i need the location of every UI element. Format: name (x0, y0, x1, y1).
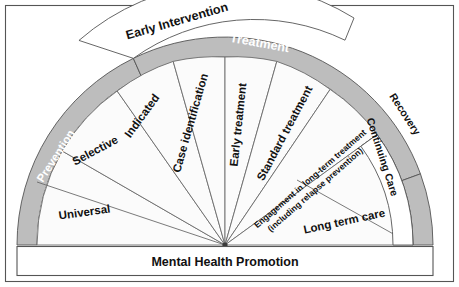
label-mental-health-promotion: Mental Health Promotion (151, 255, 298, 269)
diagram-canvas: Prevention Treatment Recovery Early Inte… (0, 0, 459, 287)
